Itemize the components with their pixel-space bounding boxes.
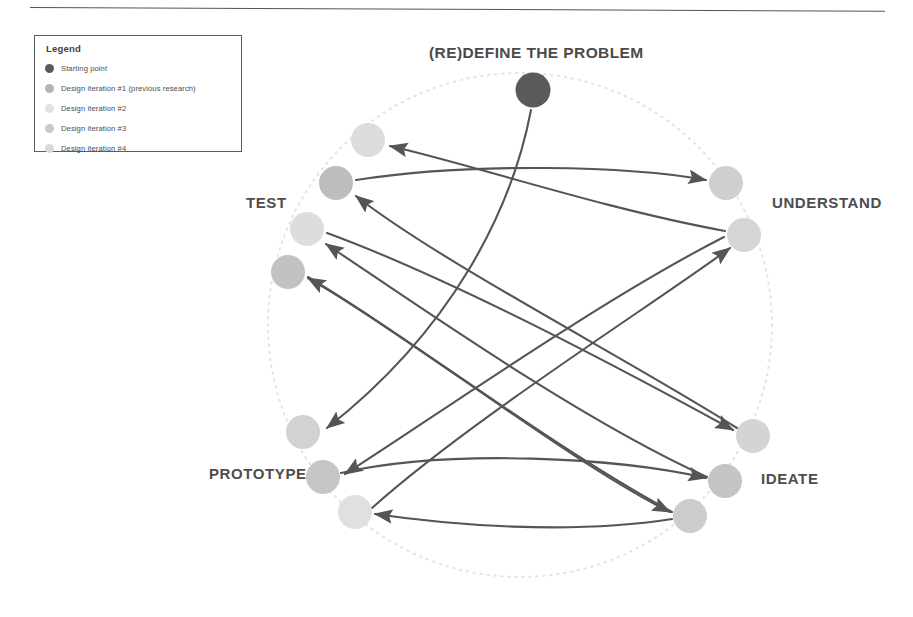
legend-swatch-starting-point [45,64,54,73]
legend-swatch-iteration-4 [45,144,54,153]
legend-item-iteration-3: Design iteration #3 [45,118,241,138]
edge-start-to-prototype1 [327,110,531,428]
legend-swatch-iteration-2 [45,104,54,113]
node-ideate-1[interactable] [736,419,770,453]
edge-ideate3-to-test4 [308,278,672,512]
legend-label-iteration-1: Design iteration #1 (previous research) [61,84,196,93]
edge-prototype3-to-understand2 [372,248,730,508]
edge-ideate3-to-prototype3 [375,514,672,527]
edge-test2-to-understand1 [356,168,706,180]
edge-understand2-to-prototype2 [345,237,724,474]
stage-label-understand: UNDERSTAND [772,194,882,211]
legend-title: Legend [46,43,241,54]
node-ideate-3[interactable] [673,499,707,533]
node-understand-1[interactable] [709,166,743,200]
legend-item-iteration-1: Design iteration #1 (previous research) [45,78,241,98]
node-test-3[interactable] [290,212,324,246]
stage-label-ideate: IDEATE [761,470,819,487]
edge-test3-to-ideate1 [327,233,733,430]
node-understand-2[interactable] [727,218,761,252]
legend-label-iteration-2: Design iteration #2 [61,104,126,113]
node-start[interactable] [516,73,551,108]
design-thinking-diagram-page: (RE)DEFINE THE PROBLEM TEST UNDERSTAND P… [0,0,913,617]
legend-label-iteration-4: Design iteration #4 [61,144,126,153]
node-prototype-3[interactable] [338,495,372,529]
stage-label-test: TEST [246,194,287,211]
node-prototype-2[interactable] [306,460,340,494]
node-ideate-2[interactable] [708,464,742,498]
legend-label-iteration-3: Design iteration #3 [61,124,126,133]
diagram-title: (RE)DEFINE THE PROBLEM [429,44,644,62]
legend-panel: Legend Starting point Design iteration #… [34,35,242,152]
legend-item-starting-point: Starting point [45,58,241,78]
node-prototype-1[interactable] [286,415,320,449]
legend-swatch-iteration-1 [45,84,54,93]
node-test-2[interactable] [319,166,353,200]
edge-group [308,110,737,527]
stage-label-prototype: PROTOTYPE [209,465,307,482]
edge-understand2-to-test1 [390,146,725,231]
node-test-4[interactable] [271,255,305,289]
legend-item-iteration-2: Design iteration #2 [45,98,241,118]
edge-ideate1-to-test2 [356,196,737,428]
legend-swatch-iteration-3 [45,124,54,133]
edge-prototype2-to-ideate2 [341,458,706,478]
legend-label-starting-point: Starting point [61,64,107,73]
node-test-1[interactable] [351,123,385,157]
legend-item-iteration-4: Design iteration #4 [45,138,241,158]
